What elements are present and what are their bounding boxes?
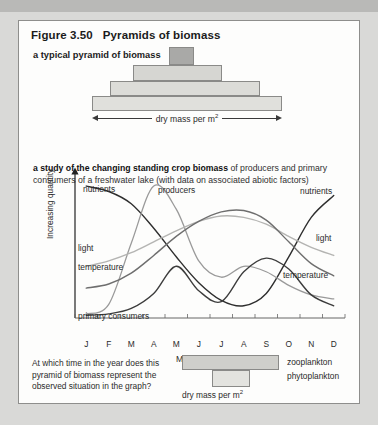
month-label-J-6: J: [214, 339, 228, 349]
pyramid-level-2: [110, 81, 260, 96]
figure-page: Figure 3.50Pyramids of biomass a typical…: [0, 0, 378, 425]
curve-label-primary-consumers-0: primary consumers: [78, 311, 149, 321]
dry-mass-arrow-row: dry mass per m2: [92, 113, 282, 124]
arrow-line-right: [222, 118, 276, 119]
x-axis-tick-labels: JFMAMJJASOND: [19, 339, 361, 351]
dry-mass-label: dry mass per m2: [152, 113, 223, 124]
month-label-J-0: J: [79, 339, 93, 349]
figure-number: Figure 3.50: [31, 29, 93, 41]
curve-label-producers-0: producers: [158, 185, 195, 195]
month-label-M-4: M: [169, 339, 183, 349]
arrow-line-left: [98, 118, 152, 119]
month-label-O-9: O: [282, 339, 296, 349]
month-label-M-2: M: [124, 339, 138, 349]
month-label-J-5: J: [192, 339, 206, 349]
zooplankton-label: zooplankton: [287, 357, 332, 367]
series-producers: [86, 185, 334, 314]
month-label-S-8: S: [259, 339, 273, 349]
bottom-dry-mass-label: dry mass per m2: [182, 389, 243, 400]
bottom-dry-mass-superscript: 2: [240, 389, 243, 395]
series-nutrients: [86, 186, 334, 306]
curve-label-temperature-0: temperature: [78, 262, 123, 272]
month-label-A-3: A: [147, 339, 161, 349]
section-a-label: a typical pyramid of biomass: [33, 50, 161, 60]
arrow-right-head-icon: [276, 115, 282, 121]
month-label-D-11: D: [327, 339, 341, 349]
y-axis-label: Increasing quantity: [45, 169, 55, 239]
month-label-F-1: F: [102, 339, 116, 349]
phytoplankton-bar: [212, 370, 250, 387]
section-b-label: a study of the changing standing crop bi…: [33, 162, 353, 186]
phytoplankton-label: phytoplankton: [287, 371, 339, 381]
month-label-A-7: A: [237, 339, 251, 349]
dry-mass-superscript: 2: [215, 113, 218, 119]
month-label-N-10: N: [304, 339, 318, 349]
question-text: At which time in the year does this pyra…: [32, 358, 184, 393]
pyramid-level-4-top: [169, 47, 194, 65]
figure-title: Figure 3.50Pyramids of biomass: [31, 29, 220, 41]
curve-label-light-1: light: [316, 233, 331, 243]
series-light: [86, 216, 334, 267]
series-primary-consumers: [86, 258, 334, 315]
section-b-bold: a study of the changing standing crop bi…: [33, 163, 228, 173]
curve-label-nutrients-0: nutrients: [83, 184, 115, 194]
zooplankton-bar: [182, 355, 279, 370]
curve-label-light-0: light: [78, 243, 93, 253]
curve-label-temperature-1: temperature: [283, 270, 328, 280]
curve-label-nutrients-1: nutrients: [300, 186, 332, 196]
pyramid-level-3: [133, 65, 222, 81]
figure-card: Figure 3.50Pyramids of biomass a typical…: [18, 20, 360, 404]
figure-title-text: Pyramids of biomass: [103, 29, 221, 41]
page-top-band: [0, 0, 378, 12]
pyramid-level-1-bottom: [92, 96, 282, 111]
